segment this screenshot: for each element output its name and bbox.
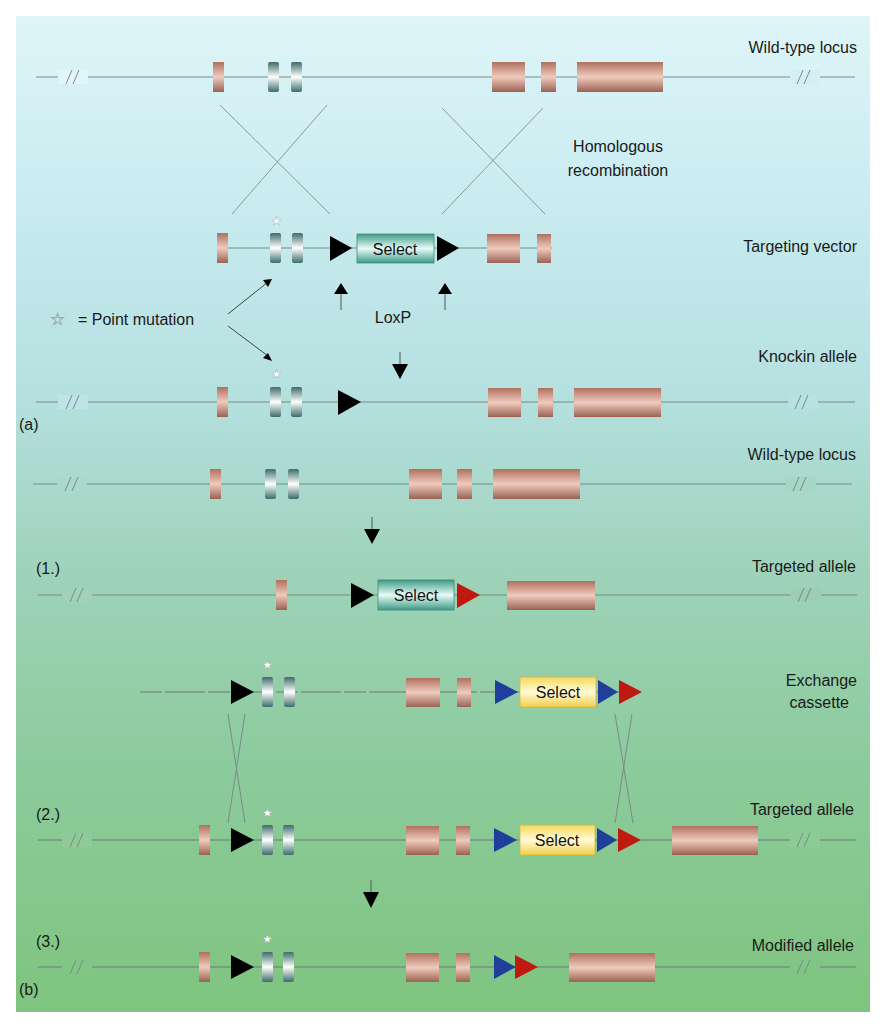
label-wildtype-locus-a: Wild-type locus [749, 39, 857, 56]
select-label: Select [536, 684, 581, 701]
homologous-recombination-crosses [220, 105, 545, 214]
label-loxp: LoxP [375, 309, 411, 326]
lox-blue-triangle-icon [494, 828, 517, 852]
step-label-2: (2.) [36, 806, 60, 823]
row-wildtype-locus-a: Wild-type locus [36, 39, 857, 92]
lox-blue-triangle-icon [597, 828, 617, 852]
label-wildtype-locus-b: Wild-type locus [748, 446, 856, 463]
loxp-triangle-icon [231, 955, 254, 979]
lox-blue-triangle-icon [495, 680, 518, 704]
down-arrow-icon [363, 880, 379, 908]
label-targeting-vector: Targeting vector [743, 238, 858, 255]
row-targeted-allele-2: ★ Select Targeted allele [38, 801, 856, 855]
star-icon: ★ [262, 658, 273, 672]
gene-targeting-diagram: Wild-type locus Homologous recombination… [0, 0, 884, 1027]
label-recombination: recombination [568, 162, 669, 179]
lox-blue-triangle-icon [494, 955, 516, 979]
star-icon: ★ [271, 367, 282, 381]
label-modified-allele: Modified allele [752, 937, 854, 954]
label-targeted-allele-2: Targeted allele [750, 801, 854, 818]
panel-label-a: (a) [19, 416, 39, 433]
row-targeted-allele-1: Select Targeted allele [38, 558, 857, 610]
select-label: Select [373, 241, 418, 258]
loxp-pointer-arrows [334, 283, 452, 310]
loxp-triangle-icon [231, 680, 254, 704]
down-arrow-icon [392, 352, 408, 379]
label-cassette: cassette [789, 694, 849, 711]
lox-red-triangle-icon [457, 583, 480, 608]
panel-label-b: (b) [19, 981, 39, 998]
step-label-1: (1.) [36, 560, 60, 577]
recombination-crossovers [228, 714, 633, 823]
row-exchange-cassette: ★ Select Exchange cassette [140, 658, 857, 711]
point-mutation-legend: ☆ = Point mutation [50, 279, 273, 361]
lox-red-triangle-icon [618, 828, 641, 852]
star-icon: ☆ [50, 310, 65, 329]
lox-blue-triangle-icon [598, 680, 618, 704]
loxp-triangle-icon [437, 236, 459, 261]
loxp-triangle-icon [231, 828, 254, 852]
label-exchange: Exchange [786, 672, 857, 689]
loxp-triangle-icon [330, 236, 352, 261]
row-wildtype-locus-b: Wild-type locus [33, 446, 856, 499]
select-label: Select [394, 587, 439, 604]
label-homologous: Homologous [573, 138, 663, 155]
label-knockin-allele: Knockin allele [758, 348, 857, 365]
label-targeted-allele-1: Targeted allele [752, 558, 856, 575]
select-label: Select [535, 832, 580, 849]
row-knockin-allele: ★ Knockin allele [36, 348, 857, 417]
lox-red-triangle-icon [619, 680, 642, 704]
step-label-3: (3.) [36, 933, 60, 950]
star-icon: ★ [262, 932, 273, 946]
star-icon: ★ [262, 806, 273, 820]
row-targeting-vector: ★ Select Targeting vector [217, 214, 858, 263]
down-arrow-icon [364, 517, 380, 544]
label-point-mutation: = Point mutation [78, 311, 194, 328]
lox-red-triangle-icon [515, 955, 538, 979]
loxp-triangle-icon [351, 583, 374, 608]
row-modified-allele: ★ Modified allele [38, 932, 856, 982]
loxp-triangle-icon [338, 390, 361, 415]
star-icon: ★ [271, 214, 282, 228]
